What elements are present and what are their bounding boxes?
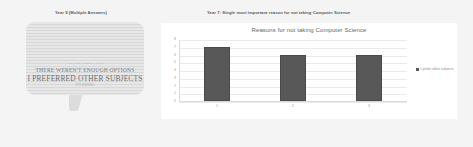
bar [356,55,382,102]
word-cloud-line-1: IT'S TOO COMPLICATED [26,61,144,65]
bar-chart: Reasons for not taking Computer Science … [161,23,457,119]
y-axis-tick-label: 3 [162,77,176,80]
bar [280,55,306,102]
x-axis-tick-label: 1 [204,104,230,108]
y-axis-tick-label: 1 [162,92,176,95]
gridline [179,102,407,103]
chart-legend: I prefer other subjects [416,67,453,71]
bar [204,47,230,101]
x-axis-line [179,101,407,102]
y-axis-tick-label: 6 [162,54,176,57]
y-axis-tick-label: 2 [162,85,176,88]
x-axis-tick-label: 3 [356,104,382,108]
right-panel-title: Year 7: Single most important reason for… [207,10,350,15]
y-axis-tick-label: 8 [162,38,176,41]
y-axis-tick-label: 0 [162,100,176,103]
word-cloud-bubble: IT'S TOO COMPLICATED THERE WEREN'T ENOUG… [26,22,146,122]
x-axis-tick-label: 2 [280,104,306,108]
y-axis-tick-label: 4 [162,69,176,72]
left-panel-title: Year 9 (Multiple Answers) [55,10,107,15]
legend-label: I prefer other subjects [421,67,454,71]
word-cloud-line-4: IT'S BORING [26,83,144,87]
y-axis-tick-label: 7 [162,46,176,49]
y-axis-line [179,40,180,102]
gridline [179,40,407,41]
plot-area: 876543210 123 [179,40,407,102]
legend-swatch-icon [416,68,419,71]
chart-title: Reasons for not taking Computer Science [161,27,457,33]
word-cloud-line-2: THERE WEREN'T ENOUGH OPTIONS [26,67,144,73]
screenshot-canvas: Year 9 (Multiple Answers) IT'S TOO COMPL… [0,0,473,147]
word-cloud-line-3: I PREFERRED OTHER SUBJECTS [26,74,144,83]
y-axis-tick-label: 5 [162,61,176,64]
